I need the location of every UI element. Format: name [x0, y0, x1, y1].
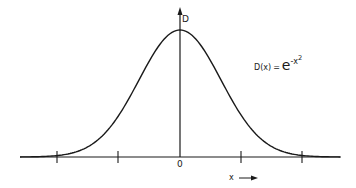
- formula-equals: =: [273, 63, 280, 72]
- x-direction-arrow-icon: [251, 176, 258, 181]
- formula-exponent-power: 2: [298, 54, 302, 62]
- formula: D(x)=e-x2: [254, 55, 302, 74]
- x-axis-label: x: [229, 174, 234, 182]
- formula-exponent-term: -x: [290, 57, 298, 66]
- origin-label: 0: [177, 160, 183, 169]
- formula-lhs: D(x): [254, 63, 271, 72]
- y-axis-label: D: [182, 15, 189, 24]
- formula-exponent: -x2: [290, 57, 302, 66]
